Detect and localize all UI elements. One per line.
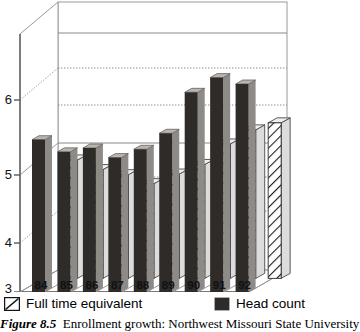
solid-dark-swatch <box>214 297 230 311</box>
x-tick-label-91: 91 <box>208 280 230 291</box>
chart-legend: Full time equivalent Head count <box>0 294 360 314</box>
chart-plot-area: 6 5 4 3 848586878889909192 <box>0 0 360 292</box>
y-tick-label-4: 4 <box>0 236 12 249</box>
y-tick-label-6: 6 <box>0 93 12 106</box>
bar-head-count-89 <box>159 129 179 292</box>
figure-caption-body: Enrollment growth: Northwest Missouri St… <box>63 316 359 331</box>
x-tick-label-87: 87 <box>106 280 128 291</box>
bar-head-count-90 <box>185 88 205 292</box>
x-tick-label-84: 84 <box>30 280 52 291</box>
figure-number: Figure 8.5 <box>0 316 56 331</box>
figure-enrollment-growth: 6 5 4 3 848586878889909192 Full time equ… <box>0 0 360 332</box>
chart-svg <box>0 0 360 292</box>
figure-caption: Figure 8.5 Enrollment growth: Northwest … <box>0 316 360 331</box>
legend-item-head-count[interactable]: Head count <box>214 294 305 314</box>
bar-head-count-88 <box>134 145 154 292</box>
x-tick-label-92: 92 <box>234 280 256 291</box>
bar-head-count-85 <box>57 148 77 292</box>
x-tick-label-85: 85 <box>55 280 77 291</box>
x-tick-label-89: 89 <box>157 280 179 291</box>
hatched-swatch <box>4 297 20 311</box>
bar-head-count-84 <box>32 136 52 292</box>
legend-item-full-time-equivalent[interactable]: Full time equivalent <box>4 294 142 314</box>
bar-fte-92 <box>268 118 290 279</box>
y-axis <box>14 34 20 292</box>
bar-head-count-92 <box>236 80 256 292</box>
y-tick-label-5: 5 <box>0 168 12 181</box>
legend-label-head-count: Head count <box>236 297 305 311</box>
x-tick-label-90: 90 <box>183 280 205 291</box>
bar-head-count-91 <box>210 74 230 292</box>
x-tick-label-86: 86 <box>81 280 103 291</box>
x-tick-label-88: 88 <box>132 280 154 291</box>
legend-label-full-time-equivalent: Full time equivalent <box>26 297 142 311</box>
bar-head-count-87 <box>108 154 128 292</box>
bar-head-count-86 <box>83 144 103 292</box>
